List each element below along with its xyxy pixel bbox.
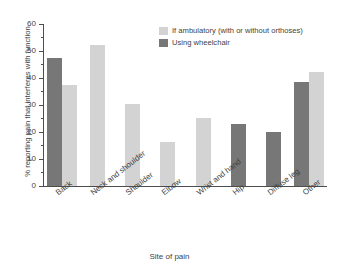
y-axis-tick-label: 0 [32,181,36,190]
bar-ambulatory [309,72,324,186]
y-axis-minor-tick-mark [41,64,44,65]
x-axis-title: Site of pain [0,252,339,261]
y-axis-tick-label: 10 [27,154,36,163]
y-axis-tick-mark [39,132,43,133]
bar-ambulatory [196,118,211,186]
y-axis-minor-tick-mark [41,37,44,38]
bar-wheelchair [266,132,281,186]
y-axis-tick-label: 40 [27,73,36,82]
bar-ambulatory [62,85,77,186]
bar-wheelchair [231,124,246,186]
y-axis-tick-mark [39,186,43,187]
y-axis-tick-mark [39,159,43,160]
y-axis-tick-label: 20 [27,127,36,136]
y-axis-minor-tick-mark [41,172,44,173]
y-axis-minor-tick-mark [41,118,44,119]
y-axis-tick-label: 60 [27,19,36,28]
y-axis-tick-mark [39,51,43,52]
chart-legend: If ambulatory (with or without orthoses)… [159,25,303,49]
legend-item-wheelchair: Using wheelchair [159,37,303,48]
legend-label-ambulatory: If ambulatory (with or without orthoses) [172,26,303,35]
bar-chart-figure: % reporting pain that interferes with fu… [0,0,339,269]
bar-ambulatory [125,104,140,186]
legend-swatch-wheelchair [159,39,168,47]
bar-wheelchair [47,58,62,186]
bar-ambulatory [90,45,105,186]
y-axis-tick-mark [39,24,43,25]
y-axis-minor-tick-mark [41,145,44,146]
legend-swatch-ambulatory [159,27,168,35]
legend-label-wheelchair: Using wheelchair [172,38,230,47]
legend-item-ambulatory: If ambulatory (with or without orthoses) [159,25,303,36]
y-axis-tick-mark [39,105,43,106]
y-axis-tick-label: 50 [27,46,36,55]
y-axis-tick-label: 30 [27,100,36,109]
y-axis-minor-tick-mark [41,91,44,92]
y-axis-tick-mark [39,78,43,79]
